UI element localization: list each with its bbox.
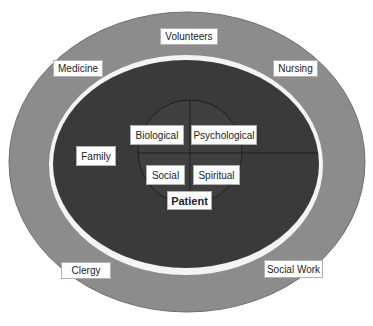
- label-social-work: Social Work: [264, 260, 323, 278]
- label-social: Social: [146, 165, 185, 185]
- label-nursing: Nursing: [273, 60, 318, 77]
- label-medicine: Medicine: [53, 60, 103, 77]
- label-biological: Biological: [130, 125, 184, 145]
- label-clergy: Clergy: [61, 262, 111, 279]
- label-family: Family: [76, 146, 116, 166]
- label-patient: Patient: [167, 191, 212, 210]
- label-volunteers: Volunteers: [160, 28, 218, 45]
- label-psychological: Psychological: [191, 125, 257, 145]
- label-spiritual: Spiritual: [193, 165, 240, 185]
